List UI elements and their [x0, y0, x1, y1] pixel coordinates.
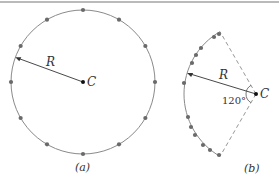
charge-dot — [143, 116, 147, 120]
caption-b: (b) — [244, 162, 260, 175]
charge-dot — [153, 80, 157, 84]
center-point — [81, 80, 85, 84]
sector-arc — [184, 32, 220, 157]
center-label-b: C — [260, 87, 269, 101]
charge-dot — [190, 61, 194, 65]
charge-dot — [189, 125, 193, 129]
charge-dot — [194, 53, 198, 57]
charge-dot — [117, 18, 121, 22]
center-point — [254, 92, 258, 96]
charge-dot — [182, 81, 186, 85]
charge-dot — [186, 115, 190, 119]
charge-dot — [212, 35, 216, 39]
charge-dot — [45, 142, 49, 146]
charge-dot — [81, 152, 85, 156]
charge-dot — [45, 18, 49, 22]
charge-dot — [217, 32, 221, 36]
charge-dot — [143, 44, 147, 48]
angle-arc — [246, 85, 251, 102]
charge-dot — [201, 143, 205, 147]
diagram-canvas: R C (a) R C 120° (b) — [0, 0, 279, 179]
panel-b-sector — [182, 32, 258, 157]
charge-dot — [208, 148, 212, 152]
charge-dot — [117, 142, 121, 146]
center-label-a: C — [87, 75, 96, 89]
panel-a-full-circle — [9, 8, 157, 156]
charge-dot — [19, 44, 23, 48]
charge-dot — [199, 46, 203, 50]
radius-label-b: R — [218, 68, 228, 82]
angle-label-b: 120° — [222, 95, 246, 106]
radius-label-a: R — [45, 55, 55, 69]
caption-a: (a) — [75, 161, 90, 174]
charge-dot — [9, 80, 13, 84]
charge-dot — [81, 8, 85, 12]
charge-dot — [217, 153, 221, 157]
charge-dot — [19, 116, 23, 120]
charge-dot — [193, 133, 197, 137]
